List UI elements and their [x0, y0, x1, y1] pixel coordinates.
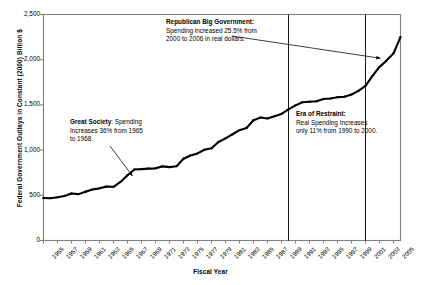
- annotation-arrows: [110, 36, 381, 176]
- annotation-great-society-line-1: Increases 36% from 1965: [70, 127, 143, 136]
- annotation-era-of-restraint-line-1: Real Spending Increases: [296, 119, 377, 128]
- annotation-republican-line-2: 2000 to 2006 in real dollars.: [166, 35, 257, 44]
- annotation-great-society-suffix: : Spending: [111, 118, 142, 125]
- annotation-great-society-heading: Great Society: Spending: [70, 118, 143, 127]
- annotation-great-society: Great Society: Spending Increases 36% fr…: [70, 118, 143, 144]
- annotation-era-of-restraint: Era of Restraint: Real Spending Increase…: [296, 110, 377, 136]
- annotation-great-society-bold: Great Society: [70, 118, 111, 125]
- annotation-republican-line-1: Spending increased 25.5% from: [166, 27, 257, 36]
- annotation-republican-heading: Republican Big Government:: [166, 18, 257, 27]
- annotation-era-of-restraint-line-2: only 11% from 1990 to 2000.: [296, 127, 377, 136]
- annotation-era-of-restraint-heading: Era of Restraint:: [296, 110, 377, 119]
- chart-container: Federal Government Outlays in Constant (…: [0, 0, 421, 285]
- annotation-republican-big-government: Republican Big Government: Spending incr…: [166, 18, 257, 44]
- annotation-great-society-line-2: to 1968.: [70, 135, 143, 144]
